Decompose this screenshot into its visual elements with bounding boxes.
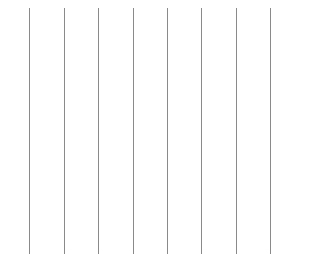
vertical-line [270,8,271,254]
vertical-line [201,8,202,254]
vertical-line [133,8,134,254]
vertical-line [29,8,30,254]
vertical-line [98,8,99,254]
vertical-line [64,8,65,254]
vertical-line [236,8,237,254]
vertical-line [167,8,168,254]
